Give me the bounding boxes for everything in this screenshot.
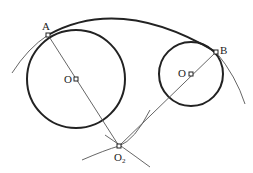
center-left-marker <box>74 77 78 81</box>
tangent-arc-diagram: A B O O O2 <box>0 0 253 173</box>
center-o2-marker <box>117 144 121 148</box>
label-o2-main: O <box>114 151 122 163</box>
label-o2: O2 <box>114 151 126 165</box>
center-right-marker <box>189 72 193 76</box>
line-b-o2 <box>119 52 216 146</box>
point-b-marker <box>214 50 218 54</box>
label-b: B <box>220 44 227 56</box>
point-a-marker <box>46 33 50 37</box>
label-center-right: O <box>178 67 186 79</box>
label-a: A <box>42 20 50 32</box>
construction-arc-o2-b <box>105 135 150 167</box>
tangent-arc <box>48 19 216 52</box>
label-center-left: O <box>64 73 72 85</box>
construction-arc-left <box>12 35 48 73</box>
line-a-o2 <box>48 35 119 146</box>
label-o2-sub: 2 <box>122 157 126 165</box>
